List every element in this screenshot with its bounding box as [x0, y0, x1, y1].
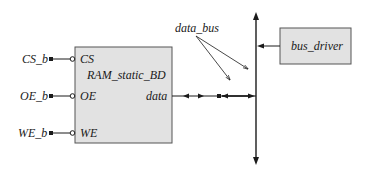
port-square-icon — [217, 94, 221, 98]
diagram-canvas: RAM_static_BD CS OE WE data CS_b OE_b WE… — [0, 0, 371, 175]
annotation-pointer-wire — [196, 36, 230, 80]
port-square-icon — [49, 131, 53, 135]
arrow-right-icon — [198, 94, 204, 99]
pin-we-label: WE — [80, 126, 98, 140]
arrow-left-icon — [183, 94, 189, 99]
port-square-icon — [49, 94, 53, 98]
port-square-icon — [49, 57, 53, 61]
arrow-left-icon — [257, 44, 264, 49]
signal-we-b: WE_b — [18, 126, 75, 140]
pin-data-label: data — [146, 89, 167, 103]
data-bus-annotation: data_bus — [175, 21, 248, 80]
signal-cs-b-label: CS_b — [22, 52, 48, 66]
arrow-right-icon — [248, 94, 255, 99]
bus-driver-label: bus_driver — [291, 39, 343, 53]
signal-oe-b: OE_b — [20, 89, 75, 103]
signal-cs-b: CS_b — [22, 52, 75, 66]
pin-cs-label: CS — [80, 52, 94, 66]
data-connection — [172, 94, 256, 99]
pin-oe-label: OE — [80, 89, 97, 103]
arrow-down-icon — [253, 157, 259, 165]
data-bus — [253, 12, 259, 165]
ram-block-title: RAM_static_BD — [86, 68, 166, 82]
inversion-bubble-icon — [70, 57, 75, 62]
inversion-bubble-icon — [70, 94, 75, 99]
signal-oe-b-label: OE_b — [20, 89, 48, 103]
signal-we-b-label: WE_b — [18, 126, 47, 140]
data-bus-label: data_bus — [175, 21, 219, 35]
bus-driver-block[interactable]: bus_driver — [257, 28, 351, 64]
annotation-pointer-bus — [196, 36, 248, 69]
arrow-up-icon — [253, 12, 259, 20]
inversion-bubble-icon — [70, 131, 75, 136]
ram-static-block[interactable]: RAM_static_BD CS OE WE data — [75, 47, 172, 143]
